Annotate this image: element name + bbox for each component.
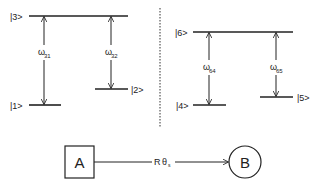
level-3-label: |3> [10,12,23,22]
source-label: A [74,154,84,171]
transition-65-sub: 65 [276,68,283,74]
level-5-label: |5> [297,93,310,103]
transition-64-sub: 64 [209,68,216,74]
transition-32-sub: 32 [111,53,118,59]
transfer-diagram: A R θ s B [65,146,261,178]
transition-31-sub: 31 [44,53,51,59]
level-4-label: |4> [176,101,189,111]
rate-symbol: R [154,157,161,167]
level-2-label: |2> [131,85,144,95]
rate-greek: θ [162,157,167,167]
rate-sub: s [168,162,171,168]
level-6-label: |6> [175,28,188,38]
target-label: B [240,154,250,171]
left-system: |3> |1> |2> ω 31 ω 32 [10,12,144,111]
energy-level-diagram: |3> |1> |2> ω 31 ω 32 |6> |4> |5> ω 64 ω… [0,0,317,192]
level-1-label: |1> [10,101,23,111]
right-system: |6> |4> |5> ω 64 ω 65 [175,28,310,111]
